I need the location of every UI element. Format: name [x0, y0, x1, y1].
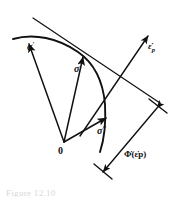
yield-surface-diagram: [0, 0, 173, 200]
label-sigma: σ: [74, 64, 79, 74]
plastic-strain-rate-vector: [80, 36, 148, 136]
figure-caption: Figure 12.10: [6, 188, 166, 197]
label-sigma-prime: σ′: [27, 41, 34, 52]
yield-surface-curve: [13, 37, 105, 152]
label-dissipation-function: Φ̇(ε̇p): [124, 150, 146, 159]
label-origin: 0: [58, 146, 63, 156]
figure-container: σ′ σ σ* 0 ε̇p Φ̇(ε̇p) Figure 12.10: [0, 0, 173, 200]
label-plastic-strain-rate: ε̇p: [148, 42, 155, 53]
label-sigma-star: σ*: [97, 125, 106, 136]
sigma-prime-vector: [29, 44, 64, 142]
supporting-hyperplane-line: [33, 18, 160, 103]
dissipation-measure-line: [103, 108, 157, 172]
measure-tick-bottom: [94, 164, 112, 179]
